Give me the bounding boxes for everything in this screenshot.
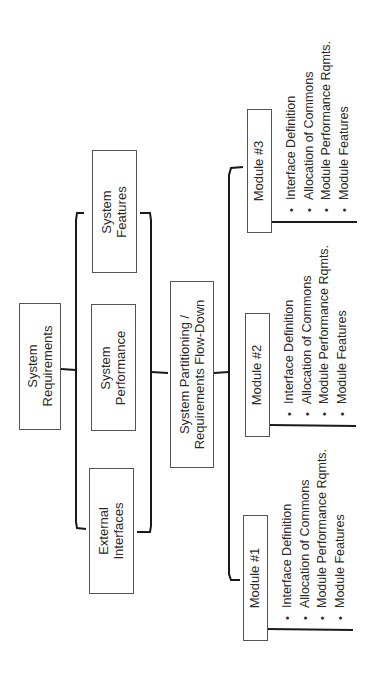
requirements-flowdown-diagram: System Requirements External Interfaces … bbox=[0, 0, 372, 677]
list-item: Module Features bbox=[334, 245, 352, 416]
system-requirements-label: System Requirements bbox=[25, 303, 55, 429]
system-features-line1: System bbox=[99, 150, 114, 274]
list-item: Module Features bbox=[336, 41, 354, 212]
list-item: Module Performance Rqmts. bbox=[318, 41, 336, 212]
system-requirements-line2: Requirements bbox=[40, 303, 55, 429]
system-performance-label: System Performance bbox=[98, 305, 128, 431]
list-item: Module Features bbox=[332, 449, 350, 620]
module-2-label: Module #2 bbox=[249, 314, 265, 436]
system-partitioning-line2: Requirements Flow-Down bbox=[192, 283, 207, 467]
module-1-list: Interface Definition Allocation of Commo… bbox=[279, 449, 349, 620]
system-features-label: System Features bbox=[99, 150, 129, 274]
system-requirements-line1: System bbox=[25, 303, 40, 429]
list-item: Module Performance Rqmts. bbox=[314, 449, 332, 620]
external-interfaces-line1: External bbox=[96, 468, 111, 594]
list-item: Interface Definition bbox=[281, 245, 299, 416]
list-item: Allocation of Commons bbox=[301, 41, 319, 212]
list-item: Interface Definition bbox=[283, 41, 301, 212]
system-performance-line1: System bbox=[98, 305, 113, 431]
module-2-list: Interface Definition Allocation of Commo… bbox=[281, 245, 351, 416]
external-interfaces-line2: Interfaces bbox=[111, 468, 126, 594]
module-3-label: Module #3 bbox=[251, 110, 267, 232]
system-partitioning-line1: System Partitioning / bbox=[177, 283, 192, 467]
system-features-line2: Features bbox=[114, 150, 129, 274]
module-3-list: Interface Definition Allocation of Commo… bbox=[283, 41, 353, 212]
external-interfaces-label: External Interfaces bbox=[96, 468, 126, 594]
system-partitioning-label: System Partitioning / Requirements Flow-… bbox=[177, 283, 208, 467]
list-item: Interface Definition bbox=[279, 449, 297, 620]
list-item: Allocation of Commons bbox=[297, 449, 315, 620]
system-performance-line2: Performance bbox=[113, 305, 128, 431]
list-item: Allocation of Commons bbox=[299, 245, 317, 416]
module-1-label: Module #1 bbox=[247, 517, 263, 639]
list-item: Module Performance Rqmts. bbox=[316, 245, 334, 416]
